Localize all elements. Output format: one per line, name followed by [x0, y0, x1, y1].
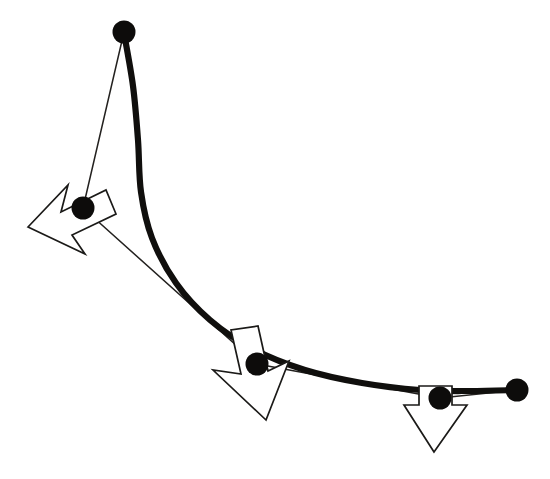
control-point-p0[interactable]	[113, 21, 136, 44]
control-point-p4[interactable]	[506, 379, 529, 402]
curve-diagram	[0, 0, 550, 479]
control-point-p2[interactable]	[246, 353, 269, 376]
control-point-p3[interactable]	[429, 387, 452, 410]
diagram-canvas	[0, 0, 550, 479]
diagram-background	[0, 0, 550, 479]
control-point-p1[interactable]	[72, 197, 95, 220]
